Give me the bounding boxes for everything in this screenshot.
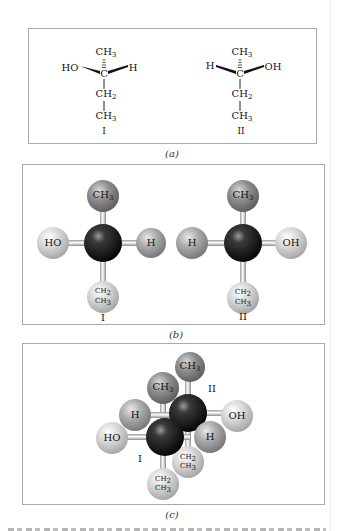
panel-c	[22, 343, 325, 505]
b-i-right-label: H	[147, 238, 156, 248]
panel-b-caption: (b)	[169, 329, 183, 340]
b-i-label: I	[101, 313, 105, 323]
c-ii-right-label: OH	[229, 411, 246, 421]
b-ii-right-label: OH	[283, 238, 300, 248]
b-i-carbon-ball	[84, 224, 122, 262]
panel-c-caption: (c)	[165, 509, 178, 520]
c-i-bottom-label-2: CH3	[155, 483, 171, 495]
c-ii-label: II	[208, 384, 216, 394]
cut-off-text-line	[0, 524, 342, 531]
c-ii-bottom-label-2: CH3	[180, 461, 196, 473]
c-ii-lower-right-label: H	[206, 432, 215, 442]
c-i-left-label: HO	[104, 433, 121, 443]
b-i-bottom-label-2: CH3	[95, 296, 111, 308]
b-i-top-label: CH3	[93, 190, 114, 203]
b-ii-top-label: CH3	[233, 190, 254, 203]
c-i-label: I	[138, 454, 142, 464]
b-ii-label: II	[239, 312, 247, 322]
b-ii-carbon-ball	[224, 224, 262, 262]
c-i-upper-left-label: H	[131, 410, 140, 420]
b-ii-bottom-label-2: CH3	[235, 297, 251, 309]
c-ii-top-label: CH3	[180, 361, 201, 374]
c-i-top-label: CH3	[153, 382, 174, 395]
b-ii-left-label: H	[188, 238, 197, 248]
b-i-left-label: HO	[45, 238, 62, 248]
